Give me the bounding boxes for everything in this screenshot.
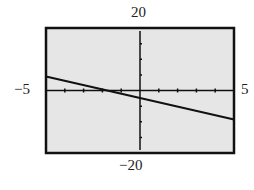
- plot-area: [0, 0, 254, 190]
